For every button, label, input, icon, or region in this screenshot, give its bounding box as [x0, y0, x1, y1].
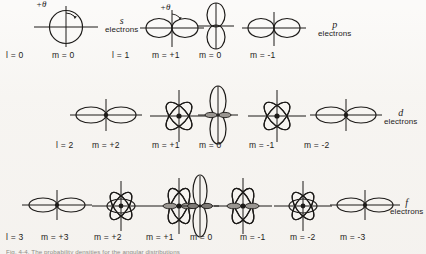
orbital-f-l3-mplus2 [90, 179, 152, 233]
orbital-d-l2-mminus1 [246, 88, 308, 144]
label-m-d-m0: m = 0 [199, 140, 222, 150]
label-l-p: l = 1 [112, 50, 129, 60]
label-m-d-mplus2: m = +2 [92, 140, 120, 150]
shell-word-s: electrons [105, 25, 138, 34]
label-m-p-mplus1: m = +1 [152, 50, 180, 60]
shell-label-d: d electrons [384, 108, 417, 126]
orbital-p-l1-m0 [196, 1, 236, 51]
label-m-f-m0: m = 0 [190, 232, 213, 242]
label-l-d: l = 2 [56, 140, 73, 150]
shell-symbol-f: f [390, 198, 423, 207]
orbital-d-l2-mplus2 [68, 97, 144, 133]
label-m-d-mminus1: m = -1 [249, 140, 275, 150]
label-m-f-mminus2: m = -2 [290, 232, 316, 242]
orbital-d-l2-m0 [196, 84, 240, 146]
figure-caption: Fig. 4-4. The probability densities for … [6, 248, 420, 254]
label-m-s-m0: m = 0 [52, 50, 75, 60]
label-l-f: l = 3 [6, 232, 23, 242]
orbital-s-l0-m0 [32, 4, 100, 48]
shell-symbol-p: p [318, 20, 351, 29]
shell-symbol-s: s [105, 16, 138, 25]
shell-symbol-d: d [384, 108, 417, 117]
shell-word-d: electrons [384, 117, 417, 126]
label-m-f-mminus1: m = -1 [240, 232, 266, 242]
label-m-f-mplus2: m = +2 [94, 232, 122, 242]
shell-word-f: electrons [390, 207, 423, 216]
orbital-angular-distribution-figure: +θ s electrons +θ [0, 0, 426, 254]
label-m-p-m0: m = 0 [199, 50, 222, 60]
shell-label-p: p electrons [318, 20, 351, 38]
label-m-p-mminus1: m = -1 [250, 50, 276, 60]
shell-label-s: s electrons [105, 16, 138, 34]
orbital-p-l1-mminus1 [240, 8, 308, 48]
orbital-d-l2-mminus2 [308, 97, 384, 133]
label-m-d-mplus1: m = +1 [152, 140, 180, 150]
theta-label-s: +θ [36, 0, 47, 9]
orbital-f-l3-mminus1 [212, 176, 274, 236]
label-m-f-mminus3: m = -3 [340, 232, 366, 242]
label-m-f-mplus3: m = +3 [41, 232, 69, 242]
label-l-s: l = 0 [6, 50, 23, 60]
label-m-f-mplus1: m = +1 [146, 232, 174, 242]
shell-word-p: electrons [318, 29, 351, 38]
orbital-f-l3-mminus2 [272, 179, 334, 233]
shell-label-f: f electrons [390, 198, 423, 216]
orbital-f-l3-mplus3 [20, 188, 94, 222]
label-m-d-mminus2: m = -2 [304, 140, 330, 150]
theta-label-p: +θ [160, 2, 171, 12]
